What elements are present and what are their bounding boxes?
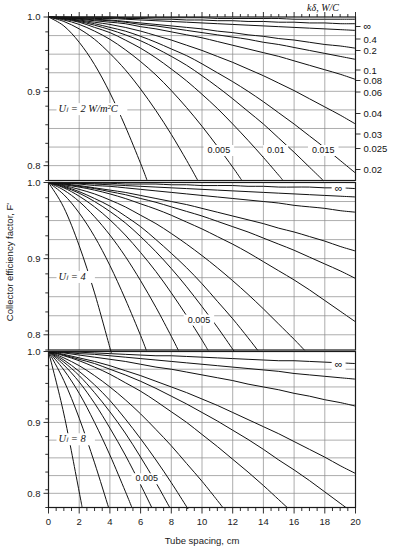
collector-efficiency-chart: 1.00.90.81.00.90.81.00.90.80246810121416… [0,0,399,554]
infinity-label: ∞ [335,358,343,370]
x-tick-label: 12 [227,516,238,527]
y-tick-label: 0.9 [27,86,40,97]
right-label-kdelta: 0.02 [364,164,383,175]
right-label-kdelta: 0.4 [364,34,377,45]
y-tick-label: 0.8 [27,488,40,499]
x-tick-label: 0 [46,516,51,527]
curve-label-0.005: 0.005 [188,315,211,325]
panel-label-panel-ul-2: Uₗ = 2 W/m²C [59,103,119,114]
right-label-kdelta: 0.04 [364,108,383,119]
right-label-kdelta: 0.08 [364,75,383,86]
x-tick-label: 18 [320,516,331,527]
right-label-kdelta: ∞ [364,20,372,32]
right-label-kdelta: 0.1 [364,65,377,76]
figure-root: 1.00.90.81.00.90.81.00.90.80246810121416… [0,0,399,554]
infinity-label: ∞ [335,182,343,194]
x-tick-label: 2 [77,516,82,527]
x-tick-label: 10 [197,516,208,527]
curve-label-0.01: 0.01 [267,145,285,155]
legend-title: kδ, W/C [307,2,339,13]
curve-label-0.005: 0.005 [208,145,231,155]
x-tick-label: 8 [169,516,174,527]
y-tick-label: 1.0 [27,346,40,357]
y-tick-label: 0.8 [27,329,40,340]
curve-label-0.015: 0.015 [312,145,335,155]
y-tick-label: 1.0 [27,11,40,22]
x-tick-label: 14 [258,516,269,527]
curve-label-0.005: 0.005 [135,473,158,483]
y-axis-title: Collector efficiency factor, F' [4,203,15,322]
y-tick-label: 0.9 [27,253,40,264]
right-label-kdelta: 0.06 [364,87,383,98]
panel-label-panel-ul-8: Uₗ = 8 [59,433,87,444]
x-axis-title: Tube spacing, cm [165,535,240,546]
right-label-kdelta: 0.025 [364,143,388,154]
y-tick-label: 1.0 [27,177,40,188]
right-label-kdelta: 0.03 [364,129,383,140]
y-tick-label: 0.9 [27,417,40,428]
x-tick-label: 20 [350,516,361,527]
y-tick-label: 0.8 [27,160,40,171]
x-tick-label: 4 [107,516,112,527]
x-tick-label: 16 [289,516,300,527]
x-tick-label: 6 [138,516,143,527]
right-label-kdelta: 0.2 [364,45,377,56]
panel-label-panel-ul-4: Uₗ = 4 [59,271,87,282]
